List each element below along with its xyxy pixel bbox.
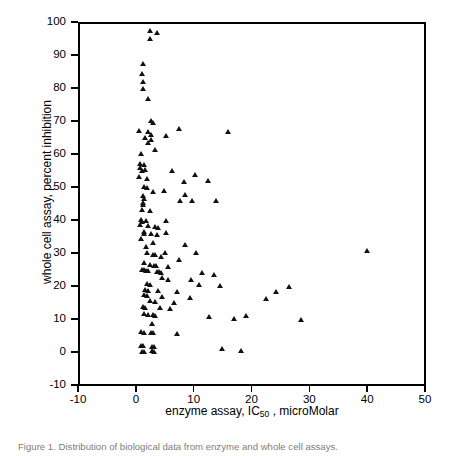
data-point (155, 225, 161, 230)
data-point (181, 179, 187, 184)
data-point (206, 314, 212, 319)
x-axis-title-subscript: 50 (260, 409, 269, 419)
x-tick (77, 385, 79, 392)
data-point (150, 240, 156, 245)
y-tick (71, 219, 78, 221)
data-point (150, 189, 156, 194)
plot-top-border (78, 22, 426, 24)
x-tick (135, 385, 137, 392)
data-point (143, 244, 149, 249)
data-point (147, 208, 153, 213)
data-point (169, 168, 175, 173)
data-point (192, 172, 198, 177)
data-point (150, 120, 156, 125)
x-tick (309, 385, 311, 392)
data-point (176, 126, 182, 131)
x-axis-title: enzyme assay, IC50 , microMolar (78, 404, 426, 419)
x-tick (251, 385, 253, 392)
data-point (231, 316, 237, 321)
y-axis-line (78, 22, 80, 385)
x-tick (193, 385, 195, 392)
data-point (144, 293, 150, 298)
data-point (145, 223, 151, 228)
data-point (174, 289, 180, 294)
data-point (205, 178, 211, 183)
data-point (139, 207, 145, 212)
y-tick-label: 0 (40, 345, 66, 357)
figure-container: -100102030405060708090100 -1001020304050… (0, 0, 450, 456)
data-point (154, 30, 160, 35)
data-point (145, 96, 151, 101)
data-point (243, 313, 249, 318)
data-point (162, 250, 168, 255)
y-tick-label: -10 (40, 378, 66, 390)
y-tick (71, 351, 78, 353)
x-axis-title-post: , microMolar (269, 404, 338, 418)
data-point (152, 299, 158, 304)
data-point (141, 349, 147, 354)
data-point (152, 313, 158, 318)
data-point (145, 140, 151, 145)
data-point (140, 79, 146, 84)
data-point (163, 218, 169, 223)
data-point (157, 305, 163, 310)
data-point (140, 61, 146, 66)
data-point (155, 288, 161, 293)
data-point (153, 263, 159, 268)
y-tick (71, 87, 78, 89)
data-point (152, 147, 158, 152)
data-point (165, 264, 171, 269)
data-point (159, 294, 165, 299)
data-point (163, 133, 169, 138)
y-tick (71, 318, 78, 320)
y-tick (71, 186, 78, 188)
data-point (163, 230, 169, 235)
data-point (199, 270, 205, 275)
y-tick (71, 120, 78, 122)
data-point (171, 300, 177, 305)
data-point (298, 317, 304, 322)
data-point (219, 346, 225, 351)
data-point (263, 296, 269, 301)
y-tick (71, 21, 78, 23)
data-point (286, 284, 292, 289)
data-point (139, 168, 145, 173)
data-point (138, 151, 144, 156)
y-tick (71, 252, 78, 254)
data-point (161, 188, 167, 193)
y-tick (71, 54, 78, 56)
data-point (147, 36, 153, 41)
data-point (149, 321, 155, 326)
y-tick (71, 285, 78, 287)
data-point (159, 275, 165, 280)
data-point (137, 222, 143, 227)
data-point (174, 331, 180, 336)
data-point (176, 257, 182, 262)
y-tick (71, 153, 78, 155)
y-tick-label: 100 (40, 15, 66, 27)
data-point (182, 192, 188, 197)
data-point (213, 198, 219, 203)
data-point (142, 305, 148, 310)
x-axis-title-pre: enzyme assay, IC (165, 404, 259, 418)
data-point (167, 306, 173, 311)
data-point (144, 176, 150, 181)
data-point (193, 250, 199, 255)
data-point (138, 236, 144, 241)
y-axis-title: whole cell assay, percent inhibition (40, 42, 54, 342)
data-point (364, 248, 370, 253)
data-point (140, 343, 146, 348)
data-point (139, 71, 145, 76)
data-point (154, 232, 160, 237)
data-point (165, 277, 171, 282)
data-point (238, 348, 244, 353)
data-point (189, 198, 195, 203)
data-point (136, 174, 142, 179)
plot-right-border (424, 22, 426, 385)
data-point (158, 254, 164, 259)
data-point (145, 268, 151, 273)
data-point (196, 282, 202, 287)
data-point (141, 330, 147, 335)
data-point (140, 86, 146, 91)
data-point (150, 330, 156, 335)
